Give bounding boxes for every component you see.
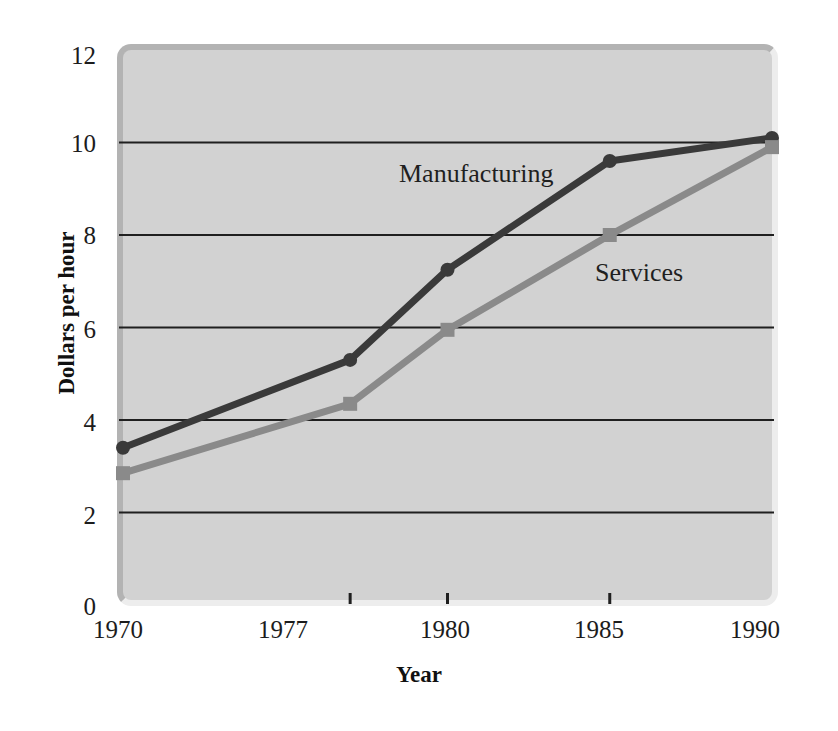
data-point-services-1990	[765, 140, 779, 154]
series-line-manufacturing	[123, 138, 772, 448]
data-point-services-1985	[603, 228, 617, 242]
data-point-manufacturing-1985	[603, 154, 617, 168]
data-point-services-1977	[343, 397, 357, 411]
data-series-layer	[116, 131, 779, 480]
x-axis-ticks	[350, 593, 610, 604]
line-chart: Dollars per hour Year 12 10 8 6 4 2 0 19…	[0, 0, 838, 731]
series-line-services	[123, 147, 772, 473]
data-point-manufacturing-1977	[343, 353, 357, 367]
data-point-manufacturing-1970	[116, 441, 130, 455]
data-point-manufacturing-1980	[441, 263, 455, 277]
data-point-services-1970	[116, 466, 130, 480]
data-point-services-1980	[441, 323, 455, 337]
chart-canvas	[0, 0, 838, 731]
